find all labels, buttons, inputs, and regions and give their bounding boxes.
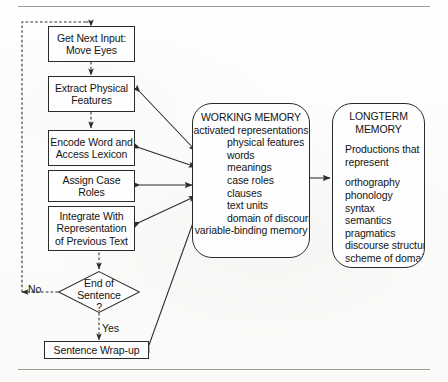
process-box-sentence-wrap-up[interactable]: Sentence Wrap-up bbox=[44, 341, 149, 359]
panel-longterm-memory[interactable]: LONGTERM MEMORY Productions that represe… bbox=[332, 103, 425, 268]
decision-line: Sentence bbox=[58, 289, 140, 301]
connector-wrapup-to-wm bbox=[149, 209, 198, 345]
process-box-line: Extract Physical bbox=[55, 82, 128, 94]
process-box-line: Get Next Input: bbox=[57, 32, 126, 44]
spacer bbox=[345, 168, 424, 176]
spacer bbox=[345, 135, 424, 143]
process-box-encode-word-access-lexicon[interactable]: Encode Word and Access Lexicon bbox=[48, 130, 135, 166]
process-box-assign-case-roles[interactable]: Assign Case Roles bbox=[48, 170, 135, 202]
list-item: domain of discourse bbox=[227, 212, 309, 225]
process-box-line: Sentence Wrap-up bbox=[54, 344, 140, 356]
longterm-memory-title-line: MEMORY bbox=[333, 123, 424, 136]
list-item: physical features bbox=[227, 136, 309, 149]
list-item: orthography bbox=[345, 176, 424, 189]
process-box-line: Encode Word and bbox=[50, 136, 132, 148]
list-item: words bbox=[227, 149, 309, 162]
list-item: semantics bbox=[345, 214, 424, 227]
list-item: scheme of domain bbox=[345, 252, 424, 265]
decision-line: End of bbox=[58, 277, 140, 289]
connector-integrate-to-wm bbox=[140, 196, 196, 222]
edge-label-yes: Yes bbox=[102, 322, 119, 334]
decision-line: ? bbox=[58, 301, 140, 313]
process-box-extract-physical-features[interactable]: Extract Physical Features bbox=[48, 76, 135, 112]
list-item: syntax bbox=[345, 202, 424, 215]
list-item: meanings bbox=[227, 161, 309, 174]
process-box-line: Assign Case bbox=[63, 174, 121, 186]
longterm-memory-title: LONGTERM MEMORY bbox=[333, 110, 424, 135]
decision-label: End of Sentence ? bbox=[58, 277, 140, 313]
working-memory-footer: variable-binding memory bbox=[193, 224, 309, 237]
panel-working-memory[interactable]: WORKING MEMORY activated representations… bbox=[192, 103, 310, 258]
process-box-line: Features bbox=[71, 94, 112, 106]
process-box-line: Move Eyes bbox=[66, 44, 117, 56]
connector-extract-to-wm bbox=[140, 92, 196, 151]
list-item: pragmatics bbox=[345, 227, 424, 240]
process-box-line: Representation bbox=[57, 222, 127, 234]
process-box-line: Roles bbox=[78, 186, 104, 198]
longterm-memory-body: Productions that represent orthography p… bbox=[333, 135, 424, 268]
list-item: text units bbox=[227, 199, 309, 212]
edge-label-no: No bbox=[28, 283, 41, 295]
decision-end-of-sentence[interactable]: End of Sentence ? bbox=[58, 271, 140, 313]
connector-encode-to-wm bbox=[140, 148, 196, 167]
process-box-get-next-input[interactable]: Get Next Input: Move Eyes bbox=[48, 26, 135, 62]
list-item: case roles bbox=[227, 174, 309, 187]
figure-canvas: Get Next Input: Move Eyes Extract Physic… bbox=[0, 0, 448, 382]
longterm-memory-subtitle-line: represent bbox=[345, 156, 424, 169]
process-box-line: Integrate With bbox=[60, 210, 124, 222]
longterm-memory-item-list: orthography phonology syntax semantics p… bbox=[345, 176, 424, 268]
process-box-integrate-with-representation[interactable]: Integrate With Representation of Previou… bbox=[48, 206, 135, 251]
working-memory-subtitle: activated representations bbox=[193, 124, 309, 137]
longterm-memory-subtitle-line: Productions that bbox=[345, 143, 424, 156]
working-memory-title: WORKING MEMORY bbox=[193, 111, 309, 124]
list-item: discourse structure bbox=[345, 239, 424, 252]
list-item: clauses bbox=[227, 187, 309, 200]
process-box-line: of Previous Text bbox=[55, 235, 128, 247]
process-box-line: Access Lexicon bbox=[56, 148, 128, 160]
longterm-memory-title-line: LONGTERM bbox=[333, 110, 424, 123]
working-memory-item-list: physical features words meanings case ro… bbox=[193, 136, 309, 224]
list-item: phonology bbox=[345, 189, 424, 202]
